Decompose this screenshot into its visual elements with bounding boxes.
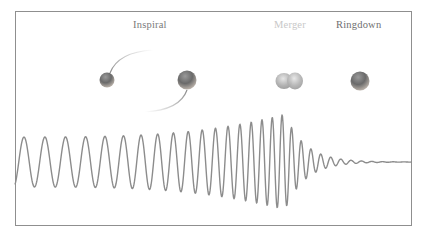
merging-black-holes [276,73,304,90]
diagram-canvas [0,0,425,241]
black-hole-small [100,73,115,88]
orbit-trail-upper [110,50,153,73]
black-hole-large [178,71,197,90]
orbit-trail-lower [145,90,187,112]
gravitational-waveform [15,115,412,208]
remnant-black-hole [351,72,370,91]
